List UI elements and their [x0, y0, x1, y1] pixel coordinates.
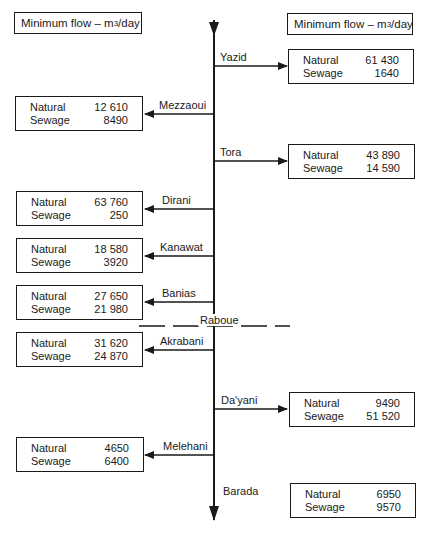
branch-label-yazid: Yazid [220, 51, 247, 63]
sewage-value: 9570 [377, 501, 401, 513]
sewage-value: 6400 [105, 455, 129, 467]
sewage-value: 24 870 [94, 350, 128, 362]
natural-value: 18 580 [94, 243, 128, 255]
legend-left: Minimum flow – m3/day [14, 12, 142, 34]
divider-label-raboue: Raboue [198, 314, 241, 326]
natural-label: Natural [31, 442, 66, 454]
legend-right: Minimum flow – m3/day [287, 13, 413, 35]
branch-label-kanawat: Kanawat [160, 241, 203, 253]
natural-label: Natural [30, 101, 65, 113]
natural-label: Natural [31, 337, 66, 349]
natural-label: Natural [303, 54, 338, 66]
river-label-barada: Barada [223, 485, 258, 497]
branch-label-dirani: Dirani [162, 194, 191, 206]
natural-value: 6950 [377, 488, 401, 500]
branch-label-akrabani: Akrabani [160, 335, 203, 347]
legend-right-unit: /day [391, 18, 413, 30]
river-bottom-arrow-icon [209, 506, 219, 521]
flow-box-tora: Natural43 890 Sewage14 590 [288, 144, 415, 179]
natural-label: Natural [31, 196, 66, 208]
flow-box-barada-outlet: Natural6950 Sewage9570 [290, 483, 416, 518]
natural-label: Natural [303, 149, 338, 161]
natural-value: 9490 [376, 397, 400, 409]
natural-value: 61 430 [365, 54, 399, 66]
natural-value: 63 760 [94, 196, 128, 208]
natural-label: Natural [305, 488, 340, 500]
sewage-label: Sewage [31, 256, 71, 268]
flow-box-mezzaoui: Natural12 610 Sewage8490 [15, 96, 143, 131]
flow-box-dayani: Natural9490 Sewage51 520 [289, 392, 415, 427]
natural-value: 12 610 [94, 101, 128, 113]
flow-box-banias: Natural27 650 Sewage21 980 [16, 285, 143, 320]
sewage-value: 8490 [104, 114, 128, 126]
flow-box-kanawat: Natural18 580 Sewage3920 [16, 238, 143, 273]
flow-box-akrabani: Natural31 620 Sewage24 870 [16, 332, 143, 367]
sewage-label: Sewage [303, 162, 343, 174]
sewage-label: Sewage [31, 209, 71, 221]
sewage-label: Sewage [31, 303, 71, 315]
branch-label-tora: Tora [220, 146, 241, 158]
river-top-arrow-icon [209, 22, 219, 36]
legend-left-text: Minimum flow – m [21, 17, 114, 29]
legend-right-text: Minimum flow – m [294, 18, 387, 30]
sewage-label: Sewage [304, 410, 344, 422]
natural-value: 31 620 [94, 337, 128, 349]
natural-label: Natural [304, 397, 339, 409]
flow-box-melehani: Natural4650 Sewage6400 [16, 437, 144, 472]
sewage-label: Sewage [30, 114, 70, 126]
sewage-value: 21 980 [94, 303, 128, 315]
natural-label: Natural [31, 243, 66, 255]
natural-value: 43 890 [366, 149, 400, 161]
natural-label: Natural [31, 290, 66, 302]
legend-left-unit: /day [118, 17, 140, 29]
sewage-value: 3920 [104, 256, 128, 268]
branch-label-banias: Banias [162, 287, 196, 299]
sewage-value: 51 520 [366, 410, 400, 422]
branch-label-mezzaoui: Mezzaoui [159, 99, 206, 111]
sewage-label: Sewage [31, 350, 71, 362]
flow-box-yazid: Natural61 430 Sewage1640 [288, 49, 414, 84]
sewage-value: 250 [110, 209, 128, 221]
natural-value: 27 650 [94, 290, 128, 302]
sewage-label: Sewage [303, 67, 343, 79]
flow-box-dirani: Natural63 760 Sewage250 [16, 191, 143, 226]
sewage-label: Sewage [305, 501, 345, 513]
sewage-value: 14 590 [366, 162, 400, 174]
sewage-label: Sewage [31, 455, 71, 467]
branch-label-melehani: Melehani [163, 440, 208, 452]
natural-value: 4650 [105, 442, 129, 454]
sewage-value: 1640 [375, 67, 399, 79]
branch-label-dayani: Da'yani [221, 394, 257, 406]
